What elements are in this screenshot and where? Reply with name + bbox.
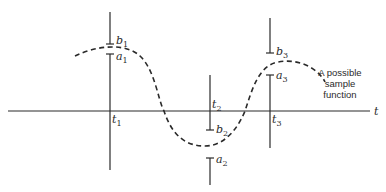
t1-label: t1 [112, 113, 122, 128]
a3-label: a3 [276, 69, 288, 84]
b3-label: b3 [276, 45, 288, 60]
sample-function-curve [75, 47, 325, 146]
curve-caption: A possible sample function [318, 67, 361, 100]
time-axis-label: t [374, 105, 379, 118]
svg-text:sample: sample [325, 78, 356, 89]
t2-label: t2 [212, 98, 222, 113]
time-point-t1: b1 a1 t1 [106, 12, 128, 170]
time-point-t3: b3 a3 t3 [266, 18, 288, 148]
svg-text:A possible: A possible [318, 67, 361, 78]
svg-text:function: function [323, 89, 356, 100]
b2-label: b2 [216, 123, 228, 138]
a1-label: a1 [116, 50, 128, 65]
time-point-t2: t2 b2 a2 [206, 75, 228, 185]
sample-function-diagram: t b1 a1 t1 t2 b2 a2 b3 a3 t3 A possible … [0, 0, 386, 192]
a2-label: a2 [216, 153, 228, 168]
t3-label: t3 [272, 113, 282, 128]
